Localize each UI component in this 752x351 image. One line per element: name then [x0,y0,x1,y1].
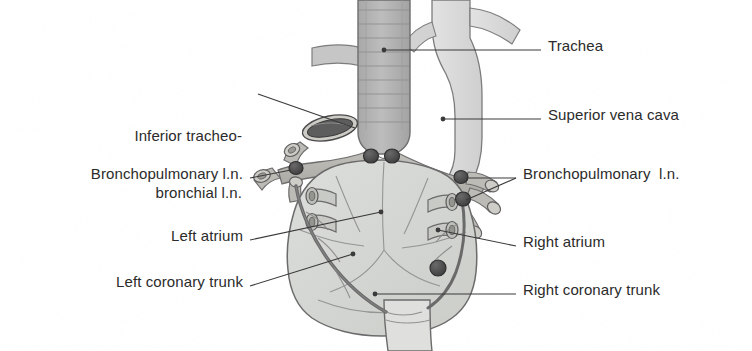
coronary-node-right [430,260,446,276]
label-right-coronary-trunk: Right coronary trunk [523,280,660,299]
label-bronchopulmonary-left: Bronchopulmonary l.n. [0,164,243,183]
inferior-vena-cava [384,300,432,351]
bronchopulmonary-node-left [289,162,303,175]
label-left-atrium: Left atrium [0,226,243,245]
aortic-arch [312,45,362,66]
label-bronchopulmonary-right: Bronchopulmonary l.n. [523,164,679,183]
label-right-atrium: Right atrium [523,232,605,251]
label-superior-vena-cava: Superior vena cava [548,105,679,124]
label-left-coronary-trunk: Left coronary trunk [0,272,243,291]
carinal-node-left [364,149,379,163]
label-inferior-tracheobronchial: Inferior tracheo- bronchial l.n. [0,88,242,221]
label-inferior-tracheobronchial-line1: Inferior tracheo- [0,126,242,145]
carinal-node-right [385,149,400,163]
trachea [358,0,410,154]
label-inferior-tracheobronchial-line2: bronchial l.n. [0,183,242,202]
bronchopulmonary-node-right-upper [454,171,468,184]
label-trachea: Trachea [548,36,603,55]
